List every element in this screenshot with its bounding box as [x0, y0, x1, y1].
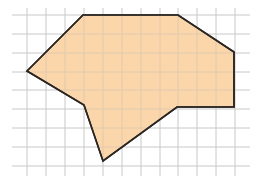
irregular-polygon: [27, 15, 234, 161]
grid-polygon-diagram: [0, 0, 260, 182]
